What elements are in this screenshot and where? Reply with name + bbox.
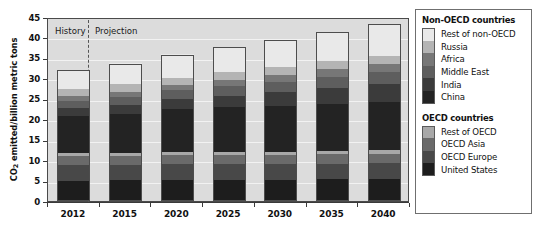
bar-segment-russia bbox=[213, 71, 246, 79]
legend-item-label: Russia bbox=[441, 42, 468, 52]
legend-item[interactable]: Rest of non-OECD bbox=[422, 28, 527, 41]
legend-swatch bbox=[422, 66, 435, 79]
chart-root: CO2 emitted/billion metric tons 05101520… bbox=[0, 0, 536, 234]
bar-segment-oecd-europe bbox=[161, 164, 194, 180]
legend-item-label: Middle East bbox=[441, 67, 489, 77]
bar-segment-russia bbox=[109, 84, 142, 92]
bar-segment-india bbox=[264, 92, 297, 107]
bar-segment-china bbox=[57, 115, 90, 152]
bar-segment-africa bbox=[57, 96, 90, 101]
bar-segment-russia bbox=[316, 61, 349, 70]
legend-group-title: Non-OECD countries bbox=[422, 15, 527, 25]
legend-item-label: India bbox=[441, 80, 461, 90]
legend-item[interactable]: Africa bbox=[422, 53, 527, 66]
legend-item[interactable]: OECD Europe bbox=[422, 151, 527, 164]
bar-segment-middle-east bbox=[213, 85, 246, 95]
bar-segment-russia bbox=[57, 88, 90, 96]
legend-item[interactable]: India bbox=[422, 78, 527, 91]
bar-2030 bbox=[264, 40, 297, 201]
bar-2025 bbox=[213, 47, 246, 201]
x-axis-tick-mark bbox=[306, 203, 307, 207]
bar-segment-rest-of-non-oecd bbox=[316, 32, 349, 62]
x-axis-label-2030: 2030 bbox=[257, 209, 303, 219]
bar-segment-oecd-asia bbox=[213, 155, 246, 165]
y-axis-tick-label: 30 bbox=[14, 74, 40, 84]
y-axis-title: CO2 emitted/billion metric tons bbox=[9, 20, 20, 200]
legend-item[interactable]: Russia bbox=[422, 41, 527, 54]
bar-segment-oecd-asia bbox=[264, 154, 297, 164]
x-axis-label-2012: 2012 bbox=[50, 209, 96, 219]
x-axis-tick-mark bbox=[99, 203, 100, 207]
era-label-history: History bbox=[55, 26, 86, 36]
bar-segment-africa bbox=[316, 69, 349, 77]
bar-segment-oecd-asia bbox=[57, 155, 90, 165]
bar-segment-oecd-europe bbox=[316, 163, 349, 179]
bar-segment-middle-east bbox=[368, 72, 401, 85]
bar-segment-rest-of-non-oecd bbox=[109, 63, 142, 84]
legend-group-items: Rest of non-OECDRussiaAfricaMiddle EastI… bbox=[422, 28, 527, 104]
bar-segment-russia bbox=[264, 67, 297, 75]
era-label-projection: Projection bbox=[95, 26, 138, 36]
bar-segment-india bbox=[316, 88, 349, 105]
bar-segment-oecd-asia bbox=[316, 154, 349, 164]
bar-segment-china bbox=[213, 107, 246, 152]
bar-segment-china bbox=[109, 113, 142, 153]
bar-segment-oecd-europe bbox=[368, 162, 401, 179]
bar-segment-oecd-europe bbox=[264, 164, 297, 180]
bar-segment-rest-of-non-oecd bbox=[57, 70, 90, 89]
legend-swatch bbox=[422, 163, 435, 176]
bar-segment-africa bbox=[368, 63, 401, 72]
bar-segment-oecd-asia bbox=[109, 155, 142, 165]
legend-item[interactable]: Rest of OECD bbox=[422, 126, 527, 139]
bar-segment-china bbox=[161, 109, 194, 152]
bar-segment-oecd-asia bbox=[161, 155, 194, 165]
bar-segment-africa bbox=[109, 91, 142, 97]
bar-segment-india bbox=[109, 104, 142, 113]
legend-item-label: Rest of OECD bbox=[441, 127, 496, 137]
bar-segment-rest-of-oecd bbox=[368, 149, 401, 153]
bar-segment-rest-of-oecd bbox=[316, 150, 349, 154]
bar-segment-rest-of-oecd bbox=[161, 151, 194, 155]
bar-segment-united-states bbox=[109, 180, 142, 201]
legend-item-label: OECD Europe bbox=[441, 152, 497, 162]
bar-segment-india bbox=[161, 99, 194, 110]
bar-2035 bbox=[316, 32, 349, 201]
bar-2040 bbox=[368, 24, 401, 201]
y-axis-tick-label: 10 bbox=[14, 156, 40, 166]
legend-group-title: OECD countries bbox=[422, 113, 527, 123]
y-axis-tick-label: 25 bbox=[14, 94, 40, 104]
bar-segment-rest-of-oecd bbox=[213, 151, 246, 155]
plot-area: History Projection bbox=[47, 18, 409, 202]
bar-2020 bbox=[161, 55, 194, 201]
x-axis-tick-mark bbox=[409, 203, 410, 207]
x-axis-label-2025: 2025 bbox=[205, 209, 251, 219]
bar-segment-united-states bbox=[264, 179, 297, 201]
legend-swatch bbox=[422, 138, 435, 151]
legend-item-label: Rest of non-OECD bbox=[441, 29, 515, 39]
bar-segment-india bbox=[368, 84, 401, 103]
bar-segment-oecd-europe bbox=[213, 164, 246, 180]
bar-segment-oecd-europe bbox=[57, 164, 90, 181]
bar-segment-russia bbox=[161, 77, 194, 85]
legend-item[interactable]: OECD Asia bbox=[422, 138, 527, 151]
bar-segment-united-states bbox=[316, 179, 349, 201]
bar-segment-russia bbox=[368, 55, 401, 64]
legend-item[interactable]: United States bbox=[422, 163, 527, 176]
legend-swatch bbox=[422, 126, 435, 139]
legend-item[interactable]: Middle East bbox=[422, 66, 527, 79]
bar-segment-india bbox=[213, 95, 246, 107]
legend-item[interactable]: China bbox=[422, 91, 527, 104]
x-axis-label-2040: 2040 bbox=[360, 209, 406, 219]
x-axis-tick-mark bbox=[202, 203, 203, 207]
legend-swatch bbox=[422, 91, 435, 104]
x-axis-tick-mark bbox=[357, 203, 358, 207]
bar-2012 bbox=[57, 70, 90, 201]
bar-segment-middle-east bbox=[57, 100, 90, 108]
legend-item-label: China bbox=[441, 92, 465, 102]
bar-segment-oecd-asia bbox=[368, 153, 401, 163]
y-axis-tick-label: 40 bbox=[14, 33, 40, 43]
bar-segment-india bbox=[57, 108, 90, 116]
legend-item-label: Africa bbox=[441, 54, 465, 64]
legend-swatch bbox=[422, 151, 435, 164]
x-axis-line bbox=[47, 202, 409, 203]
